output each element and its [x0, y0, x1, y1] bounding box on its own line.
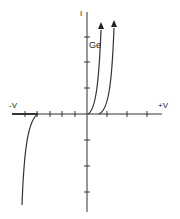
pos-voltage-label: +V [158, 102, 168, 110]
neg-voltage-label: -V [9, 102, 17, 110]
ge-curve-label: Ge [89, 41, 101, 50]
y-axis-label: I [80, 10, 82, 18]
reverse-breakdown-curve [22, 114, 38, 205]
second-arrow-icon [111, 20, 117, 27]
iv-characteristic-diagram [0, 0, 180, 219]
second-forward-curve [99, 28, 114, 114]
ge-arrow-icon [98, 22, 104, 29]
